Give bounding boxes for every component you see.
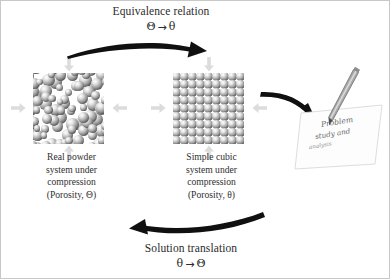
simple-cubic-caption-line-1: Simple cubic bbox=[159, 151, 264, 164]
equivalence-cycle-diagram: Equivalence relation Θ→θ Solution transl… bbox=[0, 0, 390, 279]
equivalence-relation-arrow bbox=[67, 42, 207, 60]
real-powder-caption-line-1: Real powder bbox=[19, 151, 124, 164]
analysis-handwriting-block: Problem study and analysis bbox=[299, 107, 381, 165]
simple-cubic-caption-line-3: compression bbox=[159, 176, 264, 189]
real-powder-caption: Real powder system under compression (Po… bbox=[19, 151, 124, 202]
real-powder-caption-line-2: system under bbox=[19, 164, 124, 177]
handwriting-line-2: study and bbox=[314, 126, 351, 140]
simple-cubic-caption: Simple cubic system under compression (P… bbox=[159, 151, 264, 202]
handwriting-line-3: analysis bbox=[309, 140, 332, 149]
simple-cubic-caption-line-4: (Porosity, θ) bbox=[159, 189, 264, 202]
real-powder-caption-line-4: (Porosity, Θ) bbox=[19, 189, 124, 202]
compression-arrows-center-block bbox=[151, 57, 267, 160]
simple-cubic-caption-line-2: system under bbox=[159, 164, 264, 177]
real-powder-caption-line-3: compression bbox=[19, 176, 124, 189]
compression-arrows-left-block bbox=[11, 57, 127, 160]
solution-translation-arrow bbox=[129, 212, 265, 235]
